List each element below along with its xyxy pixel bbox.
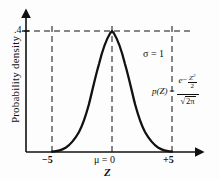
formula-numerator: e − Z2 2	[177, 76, 199, 95]
formula-left-hand-side: p(Z)	[152, 87, 168, 96]
density-formula-annotation: p(Z) = e − Z2 2 √2π	[152, 76, 199, 106]
formula-fraction: e − Z2 2 √2π	[177, 76, 199, 106]
formula-denominator: √2π	[177, 95, 197, 106]
y-axis-tick-label-04: .4	[14, 25, 22, 35]
formula-exponent-minus: −	[183, 76, 188, 84]
formula-exponent-fraction: Z2 2	[188, 73, 196, 90]
y-axis-title: Probability density	[10, 28, 21, 132]
normal-distribution-figure: Probability density .4 −5 μ = 0 +5 Z σ =…	[0, 0, 219, 180]
x-axis-title: Z	[104, 167, 111, 178]
sigma-annotation: σ = 1	[143, 49, 164, 59]
formula-equals-sign: =	[170, 87, 175, 96]
formula-square-root: √2π	[179, 96, 195, 106]
x-axis-tick-label-mu: μ = 0	[94, 155, 115, 165]
x-axis-tick-label-pos5: +5	[163, 155, 174, 165]
formula-exponent-denominator: 2	[190, 83, 196, 90]
formula-radicand: 2π	[185, 96, 196, 106]
x-axis-tick-label-neg5: −5	[42, 155, 53, 165]
